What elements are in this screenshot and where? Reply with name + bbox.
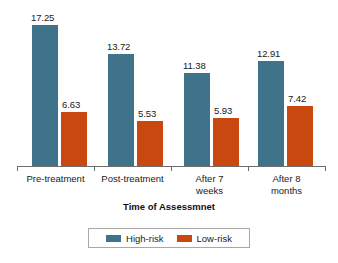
legend-label: High-risk	[126, 233, 163, 244]
bar-high-risk[interactable]	[108, 54, 134, 167]
bar-low-risk[interactable]	[61, 112, 87, 167]
bar-value-label: 5.93	[214, 105, 232, 116]
bar-chart: 17.25 6.63 13.72 5.53 11.38 5.93 12.91 7…	[0, 0, 338, 263]
category-label-line: After 8	[248, 173, 325, 185]
bar-low-risk[interactable]	[213, 118, 239, 167]
axis-tick	[325, 166, 326, 171]
chart-legend: High-risk Low-risk	[88, 228, 250, 248]
bar-group-after-7-weeks: 11.38 5.93	[184, 0, 248, 167]
axis-tick	[248, 166, 249, 171]
axis-tick	[94, 166, 95, 171]
bar-value-label: 11.38	[183, 60, 206, 71]
x-axis-category-label: Pre-treatment	[17, 173, 94, 185]
category-label-line: After 7	[171, 173, 248, 185]
x-axis-category-label: After 7 weeks	[171, 173, 248, 196]
legend-entry-high-risk[interactable]: High-risk	[106, 233, 163, 244]
category-label-line: Post-treatment	[94, 173, 171, 185]
legend-swatch-icon	[106, 235, 121, 242]
bar-group-post-treatment: 13.72 5.53	[108, 0, 172, 167]
bar-value-label: 17.25	[31, 12, 54, 23]
bar-value-label: 5.53	[138, 108, 156, 119]
bar-low-risk[interactable]	[287, 106, 313, 167]
bar-value-label: 7.42	[288, 93, 306, 104]
bar-high-risk[interactable]	[32, 25, 58, 167]
axis-tick	[17, 166, 18, 171]
legend-entry-low-risk[interactable]: Low-risk	[177, 233, 232, 244]
x-axis-category-label: After 8 months	[248, 173, 325, 196]
category-label-line: months	[248, 185, 325, 197]
axis-tick	[171, 166, 172, 171]
bar-value-label: 6.63	[62, 99, 80, 110]
bar-high-risk[interactable]	[184, 73, 210, 167]
bar-high-risk[interactable]	[258, 61, 284, 167]
bar-group-pre-treatment: 17.25 6.63	[32, 0, 96, 167]
category-label-line: Pre-treatment	[17, 173, 94, 185]
legend-label: Low-risk	[197, 233, 232, 244]
bar-group-after-8-months: 12.91 7.42	[258, 0, 322, 167]
category-label-line: weeks	[171, 185, 248, 197]
x-axis-category-label: Post-treatment	[94, 173, 171, 185]
plot-area: 17.25 6.63 13.72 5.53 11.38 5.93 12.91 7…	[0, 0, 338, 167]
bar-low-risk[interactable]	[137, 121, 163, 167]
x-axis-title: Time of Assessmnet	[0, 201, 338, 212]
legend-swatch-icon	[177, 235, 192, 242]
bar-value-label: 13.72	[107, 41, 130, 52]
bar-value-label: 12.91	[257, 48, 280, 59]
